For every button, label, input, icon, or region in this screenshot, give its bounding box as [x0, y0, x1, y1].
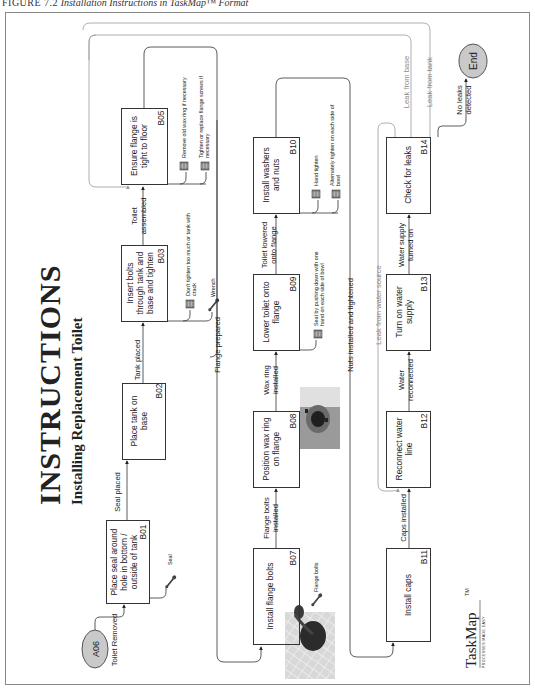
svg-text:Place tank on: Place tank on [129, 395, 139, 446]
svg-text:through tank and: through tank and [135, 251, 145, 314]
svg-text:base: base [139, 412, 149, 431]
connector-label-water-reconnected-1: Water [397, 370, 406, 390]
step-box-b03[interactable]: Insert bolts through tank and base and t… [122, 246, 168, 322]
step-box-b05[interactable]: Ensure flange is tight to floor B05 [122, 109, 168, 185]
flange-bolts-photo [285, 605, 335, 679]
connector-label-leak-water-source: Leak from water source [374, 265, 383, 344]
connector-label-water-reconnected-2: reconnected [406, 359, 415, 401]
svg-text:tight to floor: tight to floor [139, 124, 149, 168]
note-icon [180, 162, 188, 170]
note-icon [332, 190, 340, 198]
taskmap-logo: TaskMap TM PROCESSES MADE EASY [463, 588, 486, 668]
step-box-b13[interactable]: Turn on water supply B13 [387, 275, 431, 351]
connector-label-nuts-installed: Nuts installed and tightened [346, 278, 355, 372]
svg-text:bowl: bowl [335, 175, 341, 186]
diagram-subtitle: Installing Replacement Toilet [69, 317, 85, 505]
note-icon [201, 162, 209, 170]
step-box-b08[interactable]: Position wax ring on flange B08 [254, 412, 300, 488]
step-code: B10 [288, 139, 298, 154]
connector-label-no-leaks-2: detected [464, 85, 473, 114]
step-code: B14 [419, 139, 429, 154]
step-code: B01 [138, 524, 148, 539]
start-terminal-label: A06 [91, 641, 101, 657]
connector-label-tank-placed: Tank placed [133, 340, 142, 381]
step-code: B08 [288, 413, 298, 428]
connector-label-leak-from-tank: Leak from tank [425, 57, 434, 107]
svg-text:Alternately tighten on each si: Alternately tighten on each side of [329, 104, 335, 186]
tool-label-seal: Seal [167, 554, 173, 565]
svg-text:flange: flange [271, 300, 281, 323]
svg-text:Insert bolts: Insert bolts [125, 263, 135, 304]
svg-text:on flange: on flange [271, 431, 281, 466]
svg-text:hole in bottom /: hole in bottom / [119, 533, 129, 591]
step-box-b02[interactable]: Place tank on base B02 [123, 383, 166, 459]
connector-label-wax-ring-installed-2: installed [271, 366, 280, 394]
step-code: B05 [156, 110, 166, 125]
step-code: B13 [419, 276, 429, 291]
tool-label-flange-bolts: Flange bolts [313, 562, 319, 592]
step-code: B07 [288, 550, 298, 565]
svg-text:base and tighten: base and tighten [145, 252, 155, 314]
svg-text:Install flange bolts: Install flange bolts [265, 562, 275, 629]
svg-text:Reconnect water: Reconnect water [394, 417, 404, 480]
step-box-b09[interactable]: Lower toilet onto flange B09 [254, 275, 300, 351]
svg-text:supply: supply [404, 299, 414, 324]
connector-label-no-leaks-1: No leaks [455, 85, 464, 115]
wax-ring-photo [300, 387, 340, 449]
end-terminal-label: End [468, 52, 479, 70]
tool-label-wrench: Wrench [210, 279, 216, 297]
svg-text:crack: crack [191, 283, 197, 296]
svg-text:Turn on water: Turn on water [394, 286, 404, 338]
svg-text:Install caps: Install caps [403, 574, 413, 616]
svg-text:necessary: necessary [204, 133, 210, 158]
step-code: B09 [288, 276, 298, 291]
svg-text:Lower toilet onto: Lower toilet onto [261, 281, 271, 343]
step-box-b10[interactable]: Install washers and nuts B10 [254, 138, 300, 214]
note-icon [314, 330, 322, 338]
step-box-b14[interactable]: Check for leaks B14 [387, 138, 431, 214]
connector-label-water-supply-on-2: turned on [406, 229, 415, 261]
svg-text:Position wax ring: Position wax ring [261, 417, 271, 481]
connector-label-leak-from-base: Leak from base [402, 56, 411, 108]
svg-text:hand on each side of bowl: hand on each side of bowl [319, 263, 325, 326]
svg-text:Check for leaks: Check for leaks [403, 146, 413, 204]
svg-text:Remove old wax ring if necessa: Remove old wax ring if necessary [181, 77, 187, 158]
logo-tagline: PROCESSES MADE EASY [482, 616, 486, 668]
start-terminal[interactable]: A06 [82, 630, 108, 668]
logo-tm: TM [464, 588, 470, 596]
note-icon [186, 300, 194, 308]
end-terminal[interactable]: End [459, 44, 487, 78]
svg-text:outside of tank: outside of tank [129, 534, 139, 589]
step-box-b01[interactable]: Place seal around hole in bottom / outsi… [107, 521, 150, 604]
connector-label-wax-ring-installed-1: Wax ring [262, 365, 271, 395]
step-box-b12[interactable]: Reconnect water line B12 [387, 412, 431, 488]
connector-label-toilet-lowered-1: Toilet lowered [260, 222, 269, 268]
connector-label-water-supply-on-1: Water supply [397, 223, 406, 267]
svg-text:Ensure flange is: Ensure flange is [129, 116, 139, 176]
connector-label-toilet-assembled-1: Toilet [130, 206, 139, 225]
diagram-title: INSTRUCTIONS [33, 265, 66, 505]
taskmap-diagram: INSTRUCTIONS Installing Replacement Toil… [0, 0, 535, 690]
step-box-b11[interactable]: Install caps B11 [387, 549, 431, 642]
svg-text:Place seal around: Place seal around [109, 528, 119, 595]
connector-label-flange-prepared: Flange prepared [213, 317, 222, 373]
note-icon [312, 190, 320, 198]
connector-label-seal-placed: Seal placed [113, 472, 122, 512]
connector-label-flange-bolts-installed-2: installed [271, 504, 280, 532]
step-code: B12 [419, 413, 429, 428]
step-code: B11 [419, 550, 429, 565]
logo-text: TaskMap [463, 612, 479, 668]
connector-label-caps-installed: Caps installed [399, 494, 408, 542]
connector-label-toilet-lowered-2: onto flange [269, 226, 278, 264]
connector-label-flange-bolts-installed-1: Flange bolts [262, 497, 271, 539]
wrench-icon [310, 593, 324, 606]
wrench-icon [164, 575, 178, 588]
step-code: B03 [156, 248, 166, 263]
svg-text:Hand tighten: Hand tighten [313, 155, 319, 186]
svg-text:line: line [404, 442, 414, 455]
svg-text:and nuts: and nuts [271, 159, 281, 191]
connector-label-toilet-assembled-2: assembled [139, 198, 148, 235]
connector-label-toilet-removed: Toilet Removed [110, 614, 119, 666]
step-code: B02 [154, 383, 164, 398]
wrench-icon [207, 298, 221, 311]
